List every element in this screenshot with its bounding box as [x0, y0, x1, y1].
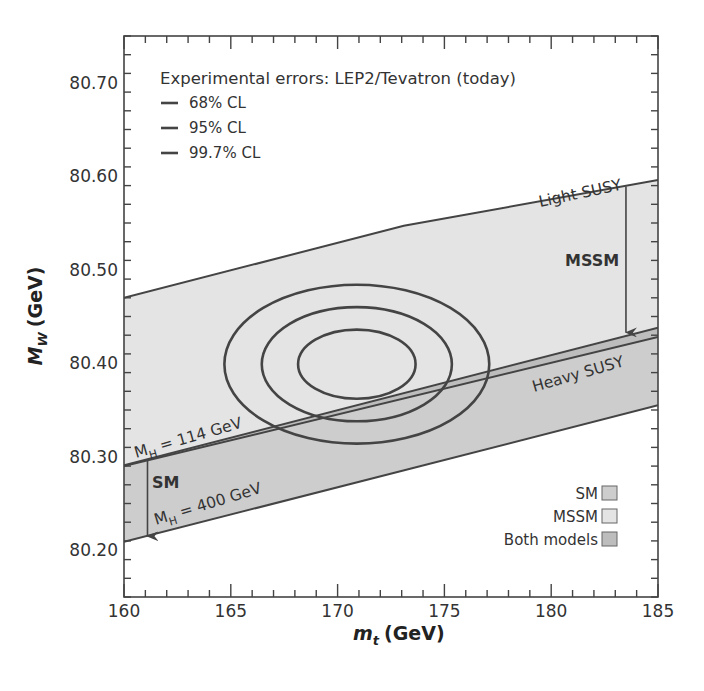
- y-tick-label: 80.50: [69, 260, 118, 280]
- sm-arrow-label: SM: [152, 473, 179, 492]
- y-tick-label: 80.30: [69, 447, 118, 467]
- legend-entry-label: 95% CL: [189, 119, 247, 137]
- legend-entry-label: 99.7% CL: [189, 144, 261, 162]
- y-tick-label: 80.20: [69, 540, 118, 560]
- x-tick-label: 160: [108, 601, 140, 621]
- mssm-arrow-label: MSSM: [565, 251, 619, 270]
- x-axis-title: mt(GeV): [353, 622, 445, 648]
- x-tick-label: 180: [535, 601, 567, 621]
- model-legend-label: MSSM: [553, 508, 598, 526]
- y-tick-label: 80.40: [69, 353, 118, 373]
- models-legend: SMMSSMBoth models: [504, 485, 617, 549]
- model-legend-swatch: [602, 509, 617, 523]
- model-legend-swatch: [602, 532, 617, 546]
- x-tick-label: 175: [428, 601, 460, 621]
- model-legend-label: Both models: [504, 531, 598, 549]
- x-tick-label: 165: [215, 601, 247, 621]
- legend-entry-label: 68% CL: [189, 94, 247, 112]
- svg-text:MW(GeV): MW(GeV): [24, 267, 50, 366]
- y-tick-label: 80.60: [69, 166, 118, 186]
- errors-legend-title: Experimental errors: LEP2/Tevatron (toda…: [160, 69, 516, 88]
- model-legend-label: SM: [576, 485, 598, 503]
- y-axis-title: MW(GeV): [24, 267, 50, 366]
- x-tick-label: 170: [321, 601, 353, 621]
- svg-text:mt(GeV): mt(GeV): [353, 622, 445, 648]
- model-legend-swatch: [602, 486, 617, 500]
- x-tick-label: 185: [642, 601, 674, 621]
- y-tick-label: 80.70: [69, 73, 118, 93]
- errors-legend: Experimental errors: LEP2/Tevatron (toda…: [160, 69, 516, 162]
- chart: Light SUSY Heavy SUSY MSSM SM MH = 114 G…: [0, 0, 704, 691]
